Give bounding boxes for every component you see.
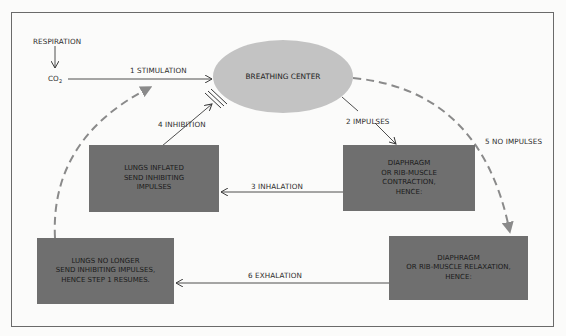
lungs-inflated-box: LUNGS INFLATED SEND INHIBITING IMPULSES — [89, 145, 219, 212]
box-text: DIAPHRAGM OR RIB-MUSCLE RELAXATION, HENC… — [406, 254, 510, 283]
step-number: 2 — [346, 117, 351, 126]
step-number: 3 — [251, 182, 256, 191]
box-text: DIAPHRAGM OR RIB-MUSCLE CONTRACTION, HEN… — [381, 159, 437, 197]
co2-subscript: 2 — [59, 78, 62, 84]
breathing-center-label: BREATHING CENTER — [246, 72, 321, 81]
step-text: EXHALATION — [255, 271, 302, 280]
box-text: LUNGS NO LONGER SEND INHIBITING IMPULSES… — [56, 257, 155, 286]
step-number: 5 — [485, 137, 490, 146]
breathing-center: BREATHING CENTER — [213, 40, 353, 113]
step-1-label: 1 STIMULATION — [130, 66, 187, 75]
step-number: 6 — [248, 271, 253, 280]
co2-text: CO — [48, 74, 59, 83]
step-text: IMPULSES — [353, 117, 389, 126]
step-3-label: 3 INHALATION — [251, 182, 303, 191]
step-text: INHIBITION — [165, 120, 206, 129]
step-6-label: 6 EXHALATION — [248, 271, 302, 280]
step-text: INHALATION — [258, 182, 303, 191]
step-number: 1 — [130, 66, 135, 75]
respiration-label: RESPIRATION — [33, 37, 81, 46]
step-number: 4 — [158, 120, 163, 129]
step-4-label: 4 INHIBITION — [158, 120, 206, 129]
co2-label: CO2 — [48, 74, 62, 84]
step-text: NO IMPULSES — [492, 137, 542, 146]
step-5-label: 5 NO IMPULSES — [485, 137, 542, 146]
lungs-no-longer-box: LUNGS NO LONGER SEND INHIBITING IMPULSES… — [37, 238, 174, 304]
contraction-box: DIAPHRAGM OR RIB-MUSCLE CONTRACTION, HEN… — [343, 145, 475, 211]
step-2-label: 2 IMPULSES — [346, 117, 389, 126]
box-text: LUNGS INFLATED SEND INHIBITING IMPULSES — [124, 164, 184, 193]
step-text: STIMULATION — [137, 66, 187, 75]
relaxation-box: DIAPHRAGM OR RIB-MUSCLE RELAXATION, HENC… — [389, 236, 528, 300]
